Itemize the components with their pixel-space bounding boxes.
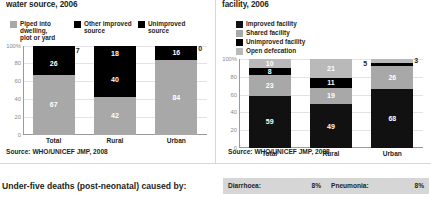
cause-label: Pneumonia: xyxy=(331,182,369,189)
legend-item-open-defecation: Open defecation xyxy=(236,47,332,55)
y-tick: 80 xyxy=(15,60,21,66)
drinking-water-source-note: Source: WHO/UNICEF JMP, 2008 xyxy=(6,148,108,155)
bar-total: 10 8 23 59 xyxy=(249,59,291,148)
legend-swatch-icon xyxy=(236,39,243,46)
y-tick: 0 xyxy=(18,132,21,138)
bar-total: 7 26 67 7 xyxy=(33,46,75,135)
y-axis: 100% 80 60 40 20 0 xyxy=(6,46,22,135)
cause-diarrhoea: Diarrhoea: 8% xyxy=(223,178,326,194)
legend-item-unimproved-facility: Unimproved facility xyxy=(236,38,332,46)
y-tick: 20 xyxy=(15,114,21,120)
outside-label-unimproved: 7 xyxy=(76,47,80,54)
y-tick: 60 xyxy=(231,92,237,98)
legend-label: Improved facility xyxy=(246,20,297,27)
legend-swatch-icon xyxy=(236,48,243,55)
bar-group: 10 8 23 59 21 xyxy=(239,59,423,148)
legend-item-piped: Piped into dwelling, plot or yard xyxy=(10,20,74,42)
under-five-deaths-title: Under-five deaths (post-neonatal) caused… xyxy=(0,181,223,191)
cause-value: 8% xyxy=(414,182,424,189)
legend-label-line-2: source xyxy=(148,27,169,34)
drinking-water-panel: Percentage of population by type of drin… xyxy=(0,0,215,164)
bar-urban: 16 84 0 xyxy=(155,46,197,135)
y-tick: 40 xyxy=(231,109,237,115)
segment-open-defecation: 21 xyxy=(310,59,352,78)
sanitation-source-note: Source: WHO/UNICEF JMP, 2008 xyxy=(228,148,330,155)
legend-item-other-improved: Other improved source xyxy=(74,20,138,42)
segment-improved-facility: 59 xyxy=(249,96,291,149)
legend-label: Piped into dwelling, plot or yard xyxy=(20,20,74,42)
legend-label: Unimproved facility xyxy=(246,38,305,45)
bar-rural: 21 11 19 49 xyxy=(310,59,352,148)
infographic-root: Percentage of population by type of drin… xyxy=(0,0,431,199)
legend-swatch-icon xyxy=(74,21,81,28)
x-label-urban: Urban xyxy=(155,137,197,144)
bar-rural: 18 40 42 xyxy=(94,46,136,135)
bar-urban: 5 3 26 68 5 3 xyxy=(371,59,413,148)
segment-improved-facility: 68 xyxy=(371,89,413,148)
sanitation-title: Percentage of population by type of sani… xyxy=(222,0,425,19)
under-five-deaths-section: Under-five deaths (post-neonatal) caused… xyxy=(0,172,431,199)
drinking-water-title: Percentage of population by type of drin… xyxy=(6,0,209,19)
x-axis-labels: Total Rural Urban xyxy=(23,137,207,144)
legend-label: Shared facility xyxy=(246,29,290,36)
legend-label-line-1: Other improved xyxy=(84,20,132,27)
cause-pneumonia: Pneumonia: 8% xyxy=(326,178,429,194)
legend-swatch-icon xyxy=(10,21,17,28)
legend-label: Other improved source xyxy=(84,20,132,34)
legend-label-line-1: Unimproved xyxy=(148,20,185,27)
segment-unimproved-facility: 8 xyxy=(249,68,291,75)
y-axis: 100% 80 60 40 20 0 xyxy=(222,59,238,148)
segment-unimproved-source: 18 xyxy=(94,46,136,62)
legend-swatch-icon xyxy=(138,21,145,28)
legend-label: Unimproved source xyxy=(148,20,185,34)
segment-piped-into-dwelling: 42 xyxy=(94,97,136,134)
segment-other-improved-source: 26 xyxy=(33,52,75,75)
segment-shared-facility: 26 xyxy=(371,66,413,89)
segment-shared-facility: 19 xyxy=(310,88,352,105)
cause-label: Diarrhoea: xyxy=(228,182,261,189)
charts-row: Percentage of population by type of drin… xyxy=(0,0,431,164)
segment-piped-into-dwelling: 84 xyxy=(155,60,197,135)
sanitation-plot: 100% 80 60 40 20 0 xyxy=(222,59,425,160)
x-label-rural: Rural xyxy=(94,137,136,144)
y-tick: 40 xyxy=(15,96,21,102)
bar-group: 7 26 67 7 18 xyxy=(23,46,207,135)
legend-swatch-icon xyxy=(236,21,243,28)
section-divider xyxy=(0,163,431,164)
legend-label-line-2: source xyxy=(84,27,105,34)
x-label-urban: Urban xyxy=(371,150,413,157)
segment-improved-facility: 49 xyxy=(310,104,352,148)
cause-of-death-bar: Diarrhoea: 8% Pneumonia: 8% xyxy=(223,178,429,194)
sanitation-legend: Improved facility Shared facility Unimpr… xyxy=(222,20,425,56)
drinking-water-plot: 100% 80 60 40 20 0 xyxy=(6,46,209,147)
segment-other-improved-source: 40 xyxy=(94,62,136,98)
segment-shared-facility: 23 xyxy=(249,75,291,96)
y-tick: 100% xyxy=(222,56,237,62)
legend-item-shared-facility: Shared facility xyxy=(236,29,332,37)
segment-open-defecation: 10 xyxy=(249,59,291,68)
outside-label-unimproved: 0 xyxy=(198,45,202,52)
y-tick: 60 xyxy=(15,78,21,84)
segment-piped-into-dwelling: 67 xyxy=(33,75,75,135)
segment-other-improved-source: 16 xyxy=(155,46,197,60)
y-tick: 80 xyxy=(231,74,237,80)
title-line-2: facility, 2006 xyxy=(222,0,425,9)
legend-label-line-1: Piped into dwelling, xyxy=(20,20,51,34)
x-label-total: Total xyxy=(33,137,75,144)
legend-label: Open defecation xyxy=(246,47,296,54)
outside-label-open-defecation: 5 xyxy=(363,60,367,67)
segment-unimproved-facility: 11 xyxy=(310,78,352,88)
legend-item-unimproved: Unimproved source xyxy=(138,20,202,42)
sanitation-panel: Percentage of population by type of sani… xyxy=(215,0,431,164)
legend-label-line-2: plot or yard xyxy=(20,34,55,41)
y-tick: 20 xyxy=(231,127,237,133)
title-line-2: water source, 2006 xyxy=(6,0,209,9)
legend-swatch-icon xyxy=(236,30,243,37)
cause-value: 8% xyxy=(311,182,321,189)
drinking-water-legend: Piped into dwelling, plot or yard Other … xyxy=(6,20,209,43)
outside-label-unimproved-facility: 3 xyxy=(414,57,418,64)
y-tick: 100% xyxy=(6,43,21,49)
legend-item-improved-facility: Improved facility xyxy=(236,20,332,28)
